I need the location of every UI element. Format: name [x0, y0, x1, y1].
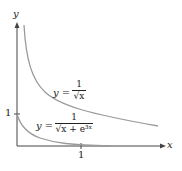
curve1-numerator: 1 — [72, 79, 86, 91]
curve1-fraction: 1 √x — [72, 79, 86, 102]
y-axis-label: y — [13, 8, 19, 19]
y-axis-arrow-icon — [15, 22, 20, 28]
y-tick-label: 1 — [5, 107, 11, 118]
curve1-lhs: y = — [53, 87, 70, 98]
curve2-denominator: √x + e³ˣ — [55, 124, 93, 135]
curve2-fraction: 1 √x + e³ˣ — [55, 112, 93, 135]
x-axis-arrow-icon — [160, 144, 166, 149]
curve1-denominator: √x — [72, 91, 86, 102]
curve-inv-sqrt — [24, 25, 158, 126]
x-axis-label: x — [167, 139, 173, 150]
chart-canvas — [0, 0, 182, 171]
x-tick-label: 1 — [78, 149, 84, 160]
curve2-lhs: y = — [36, 120, 53, 131]
curve2-numerator: 1 — [55, 112, 93, 124]
